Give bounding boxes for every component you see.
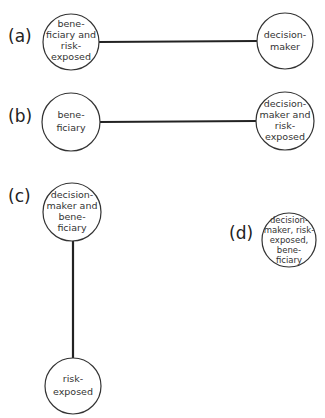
- node-text-line: exposed,: [270, 235, 308, 245]
- panel-label-c: (c): [8, 186, 31, 206]
- node-text-line: bene-: [57, 109, 84, 120]
- node-text-line: bene-: [58, 211, 85, 222]
- node-text-line: risk-: [61, 40, 81, 51]
- node-text-line: bene-: [57, 18, 84, 29]
- edge-a: [99, 41, 257, 42]
- node-text-line: maker, risk-: [264, 225, 315, 235]
- node-text-line: maker: [270, 41, 300, 52]
- node-a-beneficiary-risk-exposed: bene- ficiary and risk- exposed: [43, 14, 99, 70]
- node-text-line: exposed: [53, 386, 93, 397]
- panel-d: (d) decision- maker, risk- exposed, bene…: [229, 213, 316, 267]
- node-a-decision-maker: decision- maker: [257, 13, 313, 69]
- node-text-line: risk-: [63, 373, 83, 384]
- panel-label-a: (a): [8, 26, 32, 46]
- node-c-risk-exposed: risk- exposed: [45, 358, 101, 414]
- node-text-line: maker and: [260, 109, 311, 120]
- edge-b: [100, 121, 256, 122]
- node-text-line: decision-: [51, 189, 94, 200]
- node-d-all-roles: decision- maker, risk- exposed, bene- fi…: [262, 213, 316, 267]
- node-text-line: maker and: [47, 200, 98, 211]
- node-text-line: decision-: [264, 29, 307, 40]
- node-b-decision-maker-risk-exposed: decision- maker and risk- exposed: [256, 92, 314, 150]
- node-c-decision-maker-beneficiary: decision- maker and bene- ficiary: [43, 183, 101, 241]
- node-b-beneficiary: bene- ficiary: [42, 93, 100, 151]
- panel-c: (c) decision- maker and bene- ficiary ri…: [8, 183, 101, 414]
- node-text-line: ficiary: [56, 122, 86, 133]
- node-text-line: exposed: [51, 51, 91, 62]
- node-text-line: ficiary and: [46, 29, 96, 40]
- panel-label-d: (d): [229, 223, 253, 243]
- node-text-line: ficiary: [276, 255, 302, 265]
- node-text-line: exposed: [265, 131, 305, 142]
- node-text-line: ficiary: [57, 222, 87, 233]
- panel-b: (b) bene- ficiary decision- maker and ri…: [8, 92, 314, 151]
- node-text-line: decision-: [270, 215, 308, 225]
- role-diagram: (a) bene- ficiary and risk- exposed deci…: [0, 0, 325, 418]
- panel-label-b: (b): [8, 106, 32, 126]
- node-text-line: bene-: [277, 245, 301, 255]
- node-text-line: risk-: [275, 120, 295, 131]
- node-text-line: decision-: [264, 98, 307, 109]
- panel-a: (a) bene- ficiary and risk- exposed deci…: [8, 13, 313, 70]
